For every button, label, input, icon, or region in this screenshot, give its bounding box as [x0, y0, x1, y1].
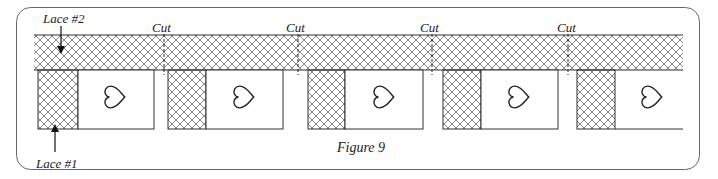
quilt-square: [345, 70, 423, 129]
lace-strip: [577, 70, 615, 129]
lace-2-band: [34, 35, 683, 70]
lace-1-label: Lace #1: [36, 157, 78, 170]
block-1: [38, 70, 154, 129]
quilt-square: [206, 70, 283, 129]
lace-1-strip: [38, 70, 78, 129]
block-4: [443, 70, 558, 129]
quilt-square: [78, 70, 154, 129]
block-5: [577, 70, 683, 129]
block-2: [168, 70, 283, 129]
cut-label-1: Cut: [152, 21, 171, 34]
cut-label-3: Cut: [420, 21, 439, 34]
cut-label-4: Cut: [557, 21, 576, 34]
block-3: [308, 70, 423, 129]
heart-icon: [642, 86, 662, 108]
lace-strip: [308, 70, 345, 129]
lace-strip: [168, 70, 206, 129]
lace-2-label: Lace #2: [43, 12, 85, 25]
quilt-square: [481, 70, 558, 129]
figure-caption: Figure 9: [337, 141, 385, 155]
cut-label-2: Cut: [286, 21, 305, 34]
lace-strip: [443, 70, 481, 129]
